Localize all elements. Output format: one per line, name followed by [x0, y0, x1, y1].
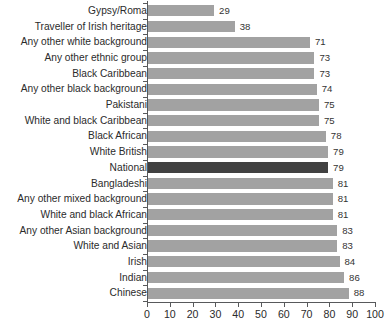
category-label: White and black Caribbean [2, 113, 147, 129]
bar [148, 225, 337, 236]
bar [148, 288, 349, 299]
category-label: White and Asian [2, 238, 147, 254]
bar-track [148, 52, 314, 63]
bar-row: Indian86 [0, 270, 390, 286]
bar-track [148, 209, 333, 220]
y-axis-tick [143, 97, 147, 98]
x-axis-tick-label: 50 [255, 308, 267, 320]
bar-row: Chinese88 [0, 285, 390, 301]
bar-row: White and black African81 [0, 207, 390, 223]
bar [148, 5, 214, 16]
x-axis-tick-label: 70 [301, 308, 313, 320]
bar-value-label: 73 [319, 66, 330, 82]
x-axis-tick-label: 30 [209, 308, 221, 320]
bar [148, 21, 235, 32]
horizontal-bar-chart: Gypsy/Roma29Traveller of Irish heritage3… [0, 0, 390, 331]
category-label: Any other Asian background [2, 223, 147, 239]
bar [148, 52, 314, 63]
category-label: Black Caribbean [2, 66, 147, 82]
bar-value-label: 74 [322, 81, 333, 97]
bar-value-label: 73 [319, 50, 330, 66]
y-axis-tick [143, 50, 147, 51]
bar-row: Any other ethnic group73 [0, 50, 390, 66]
bar-value-label: 29 [219, 3, 230, 19]
y-axis-tick [143, 176, 147, 177]
x-axis-tick-label: 100 [366, 308, 384, 320]
bar-row: Any other white background71 [0, 34, 390, 50]
bar-row: Any other Asian background83 [0, 223, 390, 239]
category-label: White and black African [2, 207, 147, 223]
bar-value-label: 86 [349, 270, 360, 286]
bar-track [148, 146, 328, 157]
bar-track [148, 99, 319, 110]
category-label: Any other ethnic group [2, 50, 147, 66]
y-axis-tick [143, 160, 147, 161]
x-axis-tick-label: 80 [323, 308, 335, 320]
y-axis-tick [143, 66, 147, 67]
y-axis-tick [143, 223, 147, 224]
y-axis-tick [143, 81, 147, 82]
y-axis-tick [143, 285, 147, 286]
bar-row: Gypsy/Roma29 [0, 3, 390, 19]
bar [148, 37, 310, 48]
bar-value-label: 38 [240, 19, 251, 35]
category-label: Traveller of Irish heritage [2, 19, 147, 35]
x-axis-tick [147, 303, 148, 307]
bar-value-label: 84 [345, 254, 356, 270]
bar-value-label: 81 [338, 191, 349, 207]
bar-value-label: 81 [338, 207, 349, 223]
y-axis-tick [143, 34, 147, 35]
x-axis-tick-label: 0 [144, 308, 150, 320]
y-axis-tick [143, 19, 147, 20]
x-axis-tick [307, 303, 308, 307]
category-label: Pakistani [2, 97, 147, 113]
bar [148, 115, 319, 126]
bar-track [148, 193, 333, 204]
category-label: Chinese [2, 285, 147, 301]
bar-track [148, 5, 214, 16]
x-axis-tick-label: 40 [232, 308, 244, 320]
y-axis-tick [143, 270, 147, 271]
bar-row: White and Asian83 [0, 238, 390, 254]
bar-track [148, 131, 326, 142]
bar-track [148, 115, 319, 126]
bar-track [148, 272, 344, 283]
bar-value-label: 75 [324, 113, 335, 129]
bar-row: National79 [0, 160, 390, 176]
category-label: Indian [2, 270, 147, 286]
bar-value-label: 71 [315, 34, 326, 50]
bar-value-label: 81 [338, 176, 349, 192]
bar [148, 272, 344, 283]
bar-row: Black African78 [0, 128, 390, 144]
bar-track [148, 178, 333, 189]
y-axis-tick [143, 113, 147, 114]
bar-value-label: 79 [333, 160, 344, 176]
y-axis-tick [143, 191, 147, 192]
bar-row: Traveller of Irish heritage38 [0, 19, 390, 35]
bar-value-label: 88 [354, 285, 365, 301]
bar [148, 240, 337, 251]
bar [148, 193, 333, 204]
bar-track [148, 256, 340, 267]
category-label: Any other mixed background [2, 191, 147, 207]
bar-value-label: 78 [331, 128, 342, 144]
bar-track [148, 240, 337, 251]
x-axis-tick [215, 303, 216, 307]
bar-track [148, 288, 349, 299]
bar-value-label: 83 [342, 223, 353, 239]
bar-row: Black Caribbean73 [0, 66, 390, 82]
y-axis-tick [143, 3, 147, 4]
bar [148, 146, 328, 157]
x-axis-tick [284, 303, 285, 307]
bar-track [148, 37, 310, 48]
bar-track [148, 162, 328, 173]
bar-row: White and black Caribbean75 [0, 113, 390, 129]
y-axis-tick [143, 207, 147, 208]
x-axis-tick-label: 90 [346, 308, 358, 320]
bar-value-label: 83 [342, 238, 353, 254]
bar-row: Any other mixed background81 [0, 191, 390, 207]
category-label: National [2, 160, 147, 176]
y-axis-tick [143, 238, 147, 239]
bar [148, 209, 333, 220]
category-label: Gypsy/Roma [2, 3, 147, 19]
